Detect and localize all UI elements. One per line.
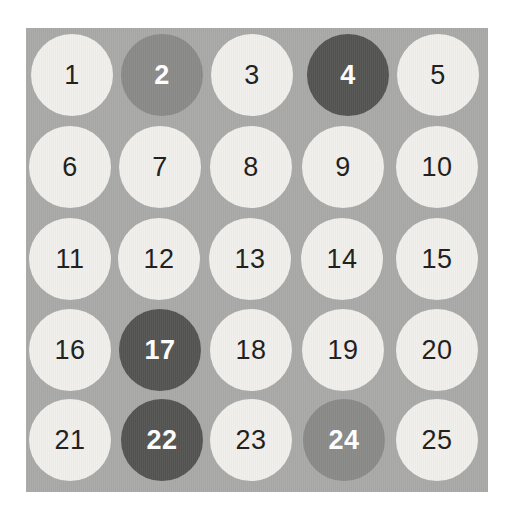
circle-cell[interactable]: 1 bbox=[31, 34, 113, 116]
circle-cell[interactable]: 21 bbox=[29, 399, 111, 481]
circle-label: 8 bbox=[243, 154, 259, 181]
circle-cell[interactable]: 8 bbox=[210, 126, 292, 208]
circle-cell[interactable]: 20 bbox=[396, 309, 478, 391]
circle-cell[interactable]: 23 bbox=[210, 399, 292, 481]
circle-label: 10 bbox=[421, 154, 452, 181]
circle-cell[interactable]: 4 bbox=[307, 34, 389, 116]
circle-label: 7 bbox=[152, 154, 168, 181]
circle-label: 23 bbox=[235, 427, 266, 454]
circle-label: 17 bbox=[144, 337, 175, 364]
circle-row: 11 12 13 14 15 bbox=[26, 218, 488, 308]
circle-label: 12 bbox=[143, 246, 174, 273]
circle-label: 13 bbox=[234, 246, 265, 273]
circle-row: 21 22 23 24 25 bbox=[26, 399, 488, 489]
circle-cell[interactable]: 12 bbox=[118, 218, 200, 300]
circle-cell[interactable]: 13 bbox=[209, 218, 291, 300]
circle-label: 21 bbox=[54, 427, 85, 454]
circle-cell[interactable]: 24 bbox=[303, 399, 385, 481]
circle-cell[interactable]: 22 bbox=[121, 399, 203, 481]
circle-label: 3 bbox=[244, 62, 260, 89]
circle-cell[interactable]: 15 bbox=[396, 218, 478, 300]
circle-label: 11 bbox=[55, 246, 84, 273]
circle-cell[interactable]: 16 bbox=[29, 309, 111, 391]
circle-label: 19 bbox=[327, 337, 358, 364]
circle-row: 16 17 18 19 20 bbox=[26, 309, 488, 399]
circle-row: 1 2 3 4 5 bbox=[26, 34, 488, 124]
circle-cell[interactable]: 5 bbox=[397, 34, 479, 116]
circle-label: 16 bbox=[54, 337, 85, 364]
circle-label: 24 bbox=[328, 427, 359, 454]
circle-cell[interactable]: 3 bbox=[211, 34, 293, 116]
circle-cell[interactable]: 7 bbox=[119, 126, 201, 208]
circle-cell[interactable]: 17 bbox=[119, 309, 201, 391]
circle-label: 20 bbox=[421, 337, 452, 364]
circle-grid-panel: 1 2 3 4 5 6 7 8 9 10 11 12 13 14 15 16 1… bbox=[26, 28, 488, 492]
circle-row: 6 7 8 9 10 bbox=[26, 126, 488, 216]
circle-label: 15 bbox=[421, 246, 452, 273]
circle-cell[interactable]: 18 bbox=[210, 309, 292, 391]
circle-label: 25 bbox=[421, 427, 452, 454]
circle-label: 18 bbox=[235, 337, 266, 364]
circle-cell[interactable]: 25 bbox=[396, 399, 478, 481]
circle-cell[interactable]: 6 bbox=[29, 126, 111, 208]
circle-label: 1 bbox=[64, 62, 80, 89]
circle-cell[interactable]: 9 bbox=[302, 126, 384, 208]
circle-cell[interactable]: 14 bbox=[301, 218, 383, 300]
circle-label: 14 bbox=[326, 246, 357, 273]
circle-cell[interactable]: 2 bbox=[121, 34, 203, 116]
circle-label: 22 bbox=[146, 427, 177, 454]
circle-label: 6 bbox=[62, 154, 78, 181]
circle-label: 5 bbox=[430, 62, 446, 89]
circle-cell[interactable]: 11 bbox=[29, 218, 111, 300]
circle-label: 2 bbox=[154, 62, 170, 89]
circle-label: 9 bbox=[335, 154, 351, 181]
circle-label: 4 bbox=[340, 62, 356, 89]
circle-cell[interactable]: 10 bbox=[396, 126, 478, 208]
circle-cell[interactable]: 19 bbox=[302, 309, 384, 391]
